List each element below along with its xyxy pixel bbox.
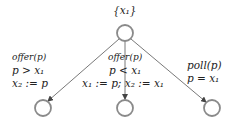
- middle-edge-guard: p < x₁: [109, 64, 141, 77]
- left-edge-label: offer(p) p > x₁ x₂ := p: [12, 51, 48, 90]
- right-edge-guard: p = x₁: [187, 72, 222, 85]
- middle-edge-action: offer(p): [108, 51, 142, 64]
- middle-state-node: [117, 100, 133, 116]
- right-edge-action: poll(p): [187, 59, 222, 72]
- right-edge-label: poll(p) p = x₁: [187, 59, 222, 85]
- middle-edge-update: x₁ := p; x₂ := x₁: [82, 77, 164, 90]
- root-node-label: {x₁}: [113, 4, 137, 17]
- root-state-node: [117, 25, 133, 41]
- left-edge-guard: p > x₁: [12, 64, 48, 77]
- left-state-node: [35, 100, 51, 116]
- left-edge-update: x₂ := p: [12, 77, 48, 90]
- left-edge-action: offer(p): [12, 51, 48, 64]
- right-state-node: [204, 100, 220, 116]
